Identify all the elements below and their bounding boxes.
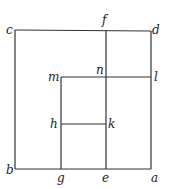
label-e: e [102,171,109,185]
label-n: n [96,63,104,77]
label-l: l [154,70,158,84]
label-c: c [6,23,13,37]
label-f: f [101,13,109,27]
label-d: d [152,23,160,37]
label-g: g [57,171,65,185]
label-b: b [6,163,14,177]
label-k: k [108,117,115,131]
geometry-diagram: c f d m n l h k b g e a [0,0,169,189]
segment-c-d [15,30,151,31]
label-h: h [50,117,58,131]
label-a: a [151,171,158,185]
label-m: m [48,70,59,84]
